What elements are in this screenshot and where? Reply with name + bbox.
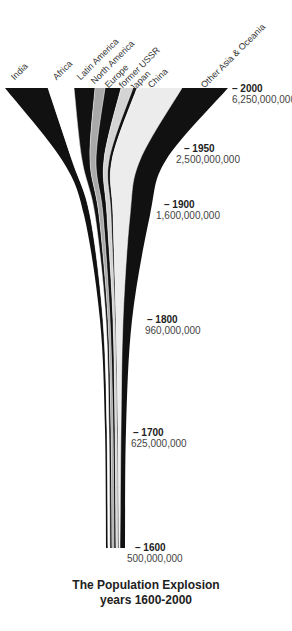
population-label: 625,000,000 — [131, 438, 187, 449]
year-marker-1900: – 1900 1,600,000,000 — [156, 199, 220, 221]
population-label: 6,250,000,000 — [232, 94, 292, 105]
population-label: 1,600,000,000 — [156, 210, 220, 221]
population-label: 2,500,000,000 — [176, 154, 240, 165]
chart-title-main: The Population Explosion — [0, 578, 292, 593]
year-marker-2000: – 2000 6,250,000,000 — [232, 83, 292, 105]
population-label: 500,000,000 — [127, 553, 183, 564]
population-label: 960,000,000 — [145, 325, 201, 336]
year-label: – 1800 — [145, 314, 201, 325]
year-label: – 1600 — [127, 542, 183, 553]
year-marker-1600: – 1600 500,000,000 — [127, 542, 183, 564]
year-marker-1950: – 1950 2,500,000,000 — [176, 143, 240, 165]
chart-subtitle: years 1600-2000 — [0, 593, 292, 608]
year-label: – 1950 — [176, 143, 240, 154]
year-label: – 1700 — [131, 427, 187, 438]
year-label: – 2000 — [232, 83, 292, 94]
year-marker-1800: – 1800 960,000,000 — [145, 314, 201, 336]
year-marker-1700: – 1700 625,000,000 — [131, 427, 187, 449]
chart-title: The Population Explosion years 1600-2000 — [0, 578, 292, 608]
year-label: – 1900 — [156, 199, 220, 210]
